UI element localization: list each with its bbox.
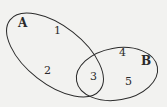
set-b-label: B bbox=[141, 54, 151, 68]
element-3: 3 bbox=[90, 70, 97, 83]
element-2: 2 bbox=[44, 64, 51, 77]
element-5: 5 bbox=[125, 75, 132, 88]
venn-diagram: A 1 2 3 4 B 5 bbox=[0, 0, 167, 107]
element-4: 4 bbox=[119, 46, 126, 59]
element-1: 1 bbox=[54, 24, 61, 37]
set-a-label: A bbox=[17, 16, 28, 30]
